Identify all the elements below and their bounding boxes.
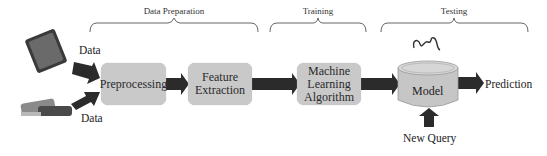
arrow-feature-to-ml [252,73,300,95]
input-label-data-top: Data [79,44,101,56]
bracket-data-preparation [90,18,258,32]
wristband-icon [20,98,72,116]
signal-waveform-icon [414,38,440,50]
process-label-preprocessing: Preprocessing [100,78,167,91]
process-box-ml-algorithm: Machine Learning Algorithm [297,63,361,105]
stage-label-testing: Testing [429,6,479,16]
process-box-feature-extraction: Feature Extraction [188,63,252,105]
stage-label-data-preparation: Data Preparation [134,6,214,16]
smartphone-icon [24,28,67,73]
arrow-data-bottom [71,92,100,110]
model-label: Model [412,84,443,99]
query-label-new-query: New Query [403,132,456,144]
arrow-data-top [72,62,100,84]
stage-label-training: Training [293,6,343,16]
arrow-pre-to-feature [165,73,189,95]
arrow-ml-to-model [360,73,400,95]
diagram-graphics [0,0,547,156]
bracket-testing [381,18,528,32]
arrow-model-to-prediction [458,72,484,94]
process-label-feature-extraction: Feature Extraction [195,71,245,97]
bracket-training [270,18,366,32]
arrow-query-to-model [419,108,439,127]
output-label-prediction: Prediction [485,78,532,90]
input-label-data-bottom: Data [81,112,103,124]
process-label-ml-algorithm: Machine Learning Algorithm [301,65,357,104]
process-box-preprocessing: Preprocessing [101,63,166,105]
